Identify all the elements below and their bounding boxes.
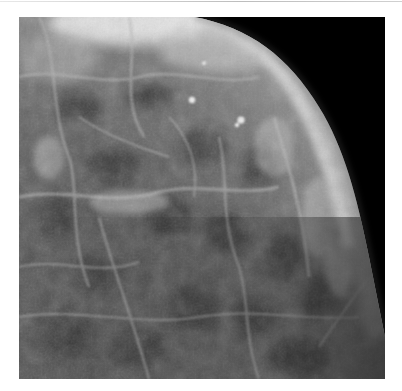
mammogram-canvas <box>19 17 385 379</box>
top-divider-line <box>0 1 402 2</box>
mammogram-image <box>19 17 385 379</box>
